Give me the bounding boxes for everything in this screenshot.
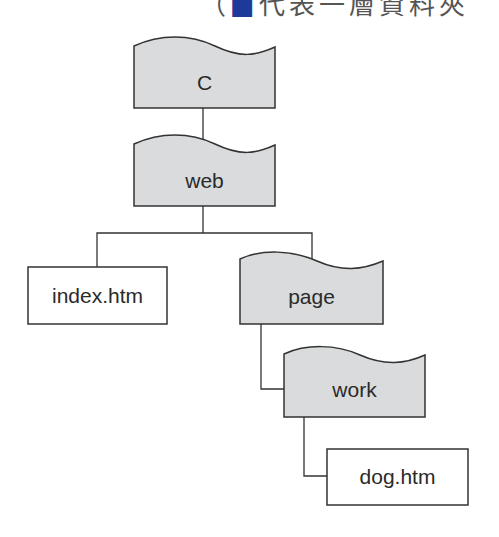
folder-node-work: work — [284, 368, 425, 412]
connector-page-work — [261, 324, 284, 389]
file-node-dog: dog.htm — [327, 449, 468, 505]
connector-work-dog — [304, 417, 327, 476]
file-node-index: index.htm — [28, 267, 167, 324]
folder-node-web: web — [134, 160, 275, 202]
folder-node-page: page — [240, 275, 383, 319]
folder-node-c: C — [134, 62, 275, 104]
